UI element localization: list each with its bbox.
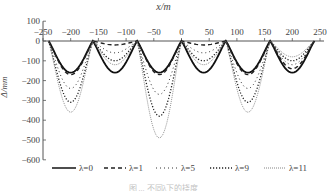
- x-tick-label: −200: [61, 27, 80, 37]
- legend-label: λ=11: [289, 163, 307, 173]
- solid-line-icon: [52, 165, 76, 171]
- x-tick-label: 150: [258, 27, 272, 37]
- y-tick-label: 0: [36, 36, 41, 46]
- x-tick-label: 200: [286, 27, 300, 37]
- fine-dotted-line-icon: [264, 165, 286, 171]
- legend-label: λ=1: [129, 163, 143, 173]
- y-tick-label: −200: [21, 76, 40, 86]
- legend: λ=0 λ=1 λ=5 λ=9 λ=11: [52, 163, 327, 177]
- dense-dotted-line-icon: [210, 165, 232, 171]
- x-tick-label: −250: [34, 27, 53, 37]
- dotted-line-icon: [156, 165, 178, 171]
- legend-label: λ=0: [79, 163, 93, 173]
- dashed-line-icon: [104, 165, 126, 171]
- legend-item-lambda-0: λ=0: [52, 163, 93, 173]
- legend-item-lambda-9: λ=9: [210, 163, 249, 173]
- legend-item-lambda-11: λ=11: [264, 163, 307, 173]
- legend-label: λ=5: [181, 163, 195, 173]
- x-tick-label: 100: [230, 27, 244, 37]
- x-tick-label: −150: [89, 27, 108, 37]
- series-line-lambda-0: [49, 41, 315, 73]
- y-tick-label: −600: [21, 155, 40, 165]
- x-tick-label: 0: [179, 27, 184, 37]
- y-tick-label: −400: [21, 115, 40, 125]
- y-tick-label: −500: [21, 135, 40, 145]
- y-tick-label: −100: [21, 56, 40, 66]
- y-tick-label: −300: [21, 95, 40, 105]
- x-tick-label: −50: [147, 27, 162, 37]
- legend-label: λ=9: [235, 163, 249, 173]
- x-tick-label: 50: [205, 27, 215, 37]
- legend-item-lambda-5: λ=5: [156, 163, 195, 173]
- x-tick-label: −100: [117, 27, 136, 37]
- figure-caption: 图 ... 不同λ下的挠度: [0, 182, 327, 191]
- x-tick-label: 250: [313, 27, 327, 37]
- legend-item-lambda-1: λ=1: [104, 163, 143, 173]
- series-line-lambda-9: [49, 41, 315, 116]
- y-tick-label: 100: [27, 16, 41, 26]
